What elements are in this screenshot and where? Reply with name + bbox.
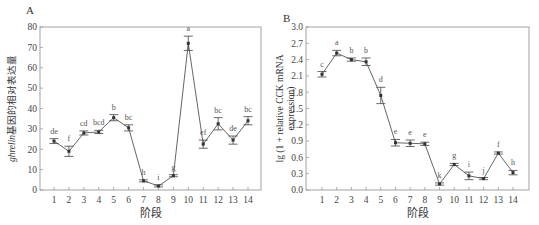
significance-label: g — [452, 151, 456, 160]
significance-label: g — [171, 163, 175, 172]
data-point — [187, 42, 190, 45]
y-tick-label: 2.7 — [291, 39, 303, 49]
significance-label: e — [423, 130, 427, 139]
data-point — [497, 152, 500, 155]
x-tick-label: 10 — [449, 195, 459, 205]
x-tick-label: 9 — [171, 195, 176, 205]
x-axis-title: 阶段 — [407, 206, 429, 220]
x-tick-label: 8 — [422, 195, 427, 205]
significance-label: i — [468, 160, 471, 169]
y-tick-label: 0.3 — [291, 169, 303, 179]
plot-frame — [306, 27, 529, 190]
data-point — [365, 60, 368, 63]
data-point — [142, 179, 145, 182]
x-tick-label: 3 — [349, 195, 354, 205]
significance-label: j — [481, 166, 484, 175]
x-tick-label: 2 — [67, 195, 72, 205]
x-tick-label: 7 — [141, 195, 146, 205]
significance-label: bc — [244, 105, 252, 114]
significance-label: e — [394, 127, 398, 136]
data-point — [321, 73, 324, 76]
significance-label: de — [50, 127, 58, 136]
y-tick-label: 40 — [28, 104, 38, 114]
y-axis-title-gene: ghrelin — [7, 135, 17, 162]
data-point — [394, 141, 397, 144]
plot-frame — [40, 27, 261, 190]
data-point — [157, 184, 160, 187]
chart-panel-b: B0.00.30.60.91.21.51.82.12.42.73.0123456… — [275, 12, 529, 220]
significance-label: b — [364, 46, 368, 55]
y-axis-title-rest: 基因的相对表达量 — [6, 55, 17, 135]
y-axis-title-line2: expression) — [286, 87, 297, 131]
data-point — [112, 116, 115, 119]
significance-label: h — [142, 168, 146, 177]
x-tick-label: 6 — [126, 195, 131, 205]
significance-label: bc — [125, 113, 133, 122]
x-tick-label: 14 — [243, 195, 253, 205]
y-tick-label: 50 — [28, 83, 38, 93]
data-point — [335, 52, 338, 55]
data-point — [350, 58, 353, 61]
significance-label: k — [438, 171, 442, 180]
y-tick-label: 20 — [28, 145, 38, 155]
significance-label: e — [408, 128, 412, 137]
y-tick-label: 2.1 — [291, 71, 303, 81]
panel-label: B — [283, 12, 290, 24]
significance-label: ef — [200, 128, 207, 137]
x-tick-label: 11 — [199, 195, 208, 205]
x-tick-label: 14 — [508, 195, 518, 205]
y-axis-title: ghrelin基因的相对表达量 — [6, 55, 17, 162]
y-tick-label: 10 — [28, 165, 38, 175]
x-tick-label: 8 — [156, 195, 161, 205]
x-tick-label: 11 — [464, 195, 473, 205]
data-point — [232, 139, 235, 142]
x-tick-label: 3 — [81, 195, 86, 205]
data-point — [127, 126, 130, 129]
data-point — [67, 150, 70, 153]
data-point — [379, 94, 382, 97]
significance-label: bcd — [93, 118, 105, 127]
x-tick-label: 5 — [378, 195, 383, 205]
x-tick-label: 13 — [228, 195, 238, 205]
data-point — [467, 174, 470, 177]
y-tick-label: 60 — [28, 63, 38, 73]
data-point — [172, 174, 175, 177]
significance-label: f — [68, 134, 71, 143]
data-point — [97, 130, 100, 133]
significance-label: a — [187, 24, 191, 33]
y-tick-label: 0.6 — [291, 153, 303, 163]
y-tick-label: 2.4 — [291, 55, 303, 65]
x-tick-label: 13 — [494, 195, 504, 205]
significance-label: c — [320, 60, 324, 69]
data-point — [217, 122, 220, 125]
y-tick-label: 80 — [28, 22, 38, 32]
y-tick-label: 70 — [28, 43, 38, 53]
x-tick-label: 4 — [96, 195, 101, 205]
x-tick-label: 12 — [479, 195, 489, 205]
y-tick-label: 0.0 — [291, 185, 303, 195]
data-point — [453, 163, 456, 166]
x-tick-label: 4 — [364, 195, 369, 205]
x-tick-label: 7 — [408, 195, 413, 205]
x-tick-label: 1 — [320, 195, 325, 205]
significance-label: de — [229, 124, 237, 133]
x-tick-label: 6 — [393, 195, 398, 205]
panel-label: A — [26, 4, 34, 16]
charts-canvas: A010203040506070801234567891011121314阶段g… — [0, 0, 539, 225]
significance-label: f — [497, 140, 500, 149]
x-tick-label: 9 — [437, 195, 442, 205]
data-point — [53, 140, 56, 143]
data-point — [512, 171, 515, 174]
data-point — [247, 119, 250, 122]
y-tick-label: 0 — [32, 185, 37, 195]
significance-label: h — [511, 158, 515, 167]
y-axis-title-line1: lg (1 + relative CCK mRNA — [275, 54, 286, 162]
significance-label: cd — [80, 119, 88, 128]
significance-label: b — [112, 103, 116, 112]
significance-label: bc — [214, 106, 222, 115]
chart-panel-a: A010203040506070801234567891011121314阶段g… — [6, 4, 261, 220]
data-point — [423, 142, 426, 145]
data-line — [322, 53, 513, 184]
x-tick-label: 5 — [111, 195, 116, 205]
y-tick-label: 30 — [28, 124, 38, 134]
